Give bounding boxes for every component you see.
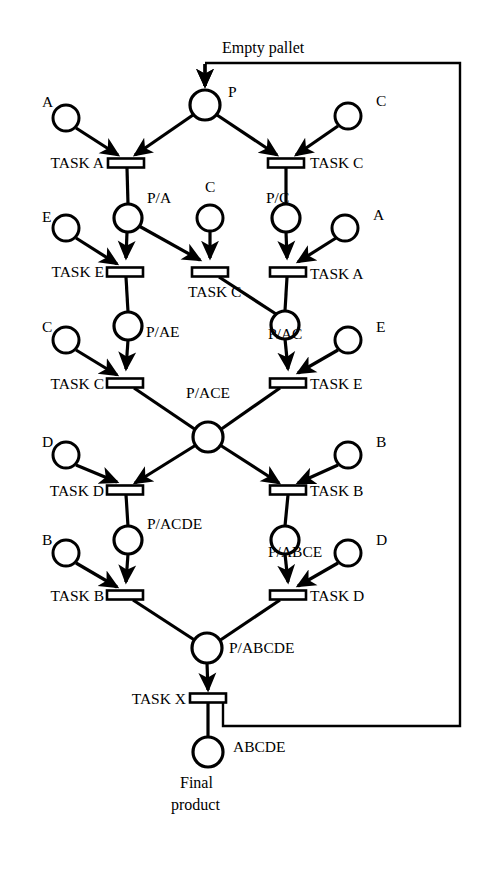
- arc-res_c_3-to-t_c_3: [76, 350, 117, 375]
- place-res_b_2[interactable]: [53, 540, 79, 566]
- place-circle: [335, 327, 361, 353]
- transition-bar: [270, 486, 306, 495]
- arc-t_b_2-to-p_abcde: [133, 600, 196, 641]
- place-circle: [335, 540, 361, 566]
- arc-res_d_1-to-t_d_1: [76, 465, 117, 482]
- transition-label-t_c_3: TASK C: [51, 375, 104, 392]
- transition-bar: [190, 694, 226, 703]
- transition-bar: [270, 591, 306, 600]
- place-circle: [53, 540, 79, 566]
- transition-label-t_e_1: TASK E: [51, 263, 104, 280]
- arc-p-to-t_a_1: [135, 115, 193, 155]
- arc-res_e_2-to-t_e_2: [298, 350, 338, 373]
- transition-t_a_1[interactable]: [108, 159, 144, 168]
- place-p_acde[interactable]: [114, 526, 142, 554]
- place-label-p_ae: P/AE: [146, 323, 180, 340]
- transition-t_e_2[interactable]: [270, 379, 306, 388]
- place-circle: [53, 327, 79, 353]
- place-abcde[interactable]: [193, 737, 223, 767]
- petri-net-diagram: TASK ATASK CTASK ETASK CTASK ATASK CTASK…: [0, 0, 487, 869]
- place-label-res_c_2: C: [205, 178, 215, 195]
- place-label-res_e_1: E: [42, 208, 51, 225]
- arc-p-to-t_c_1: [217, 115, 277, 155]
- arc-p_a-to-t_c_2: [139, 226, 200, 260]
- transition-t_c_2[interactable]: [192, 268, 228, 277]
- place-circle: [114, 526, 142, 554]
- place-res_e_1[interactable]: [53, 215, 79, 241]
- place-label-p_a: P/A: [147, 189, 172, 206]
- place-label-p_acde: P/ACDE: [147, 515, 202, 532]
- arc-p_a-to-t_e_1: [126, 232, 127, 258]
- transition-bar: [107, 379, 143, 388]
- place-res_b_1[interactable]: [335, 442, 361, 468]
- transition-bar: [270, 268, 306, 277]
- arc-p_abcde-to-t_x: [207, 663, 208, 690]
- arc-res_e_1-to-t_e_1: [76, 238, 117, 264]
- transition-t_c_1[interactable]: [268, 159, 304, 168]
- transition-label-t_a_2: TASK A: [310, 265, 364, 282]
- transition-label-t_d_2: TASK D: [310, 587, 364, 604]
- transition-label-t_c_2: TASK C: [188, 283, 241, 300]
- transition-label-t_a_1: TASK A: [51, 154, 105, 171]
- place-res_d_2[interactable]: [335, 540, 361, 566]
- place-res_a_2[interactable]: [332, 215, 358, 241]
- arc-res_a_1-to-t_a_1: [76, 128, 118, 155]
- transition-label-t_e_2: TASK E: [310, 375, 363, 392]
- place-p_a[interactable]: [114, 204, 142, 232]
- place-label-res_a_2: A: [373, 206, 385, 223]
- transition-bar: [107, 591, 143, 600]
- place-circle: [114, 204, 142, 232]
- place-res_e_2[interactable]: [335, 327, 361, 353]
- place-label-p_abcde: P/ABCDE: [229, 639, 294, 656]
- place-label-res_e_2: E: [376, 318, 385, 335]
- arc-t_d_2-to-p_abcde: [219, 600, 280, 641]
- place-p_c[interactable]: [272, 204, 300, 232]
- place-res_a_1[interactable]: [53, 105, 79, 131]
- arc-t_e_1-to-p_ae: [126, 277, 128, 312]
- arc-res_a_2-to-t_a_2: [298, 238, 336, 262]
- place-res_c_1[interactable]: [335, 103, 361, 129]
- place-circle: [192, 633, 222, 663]
- arc-t_a_1-to-p_a: [127, 168, 128, 204]
- place-p[interactable]: [190, 90, 220, 120]
- arc-p_ae-to-t_c_3: [126, 340, 128, 369]
- transition-t_c_3[interactable]: [107, 379, 143, 388]
- place-label-res_d_2: D: [376, 531, 387, 548]
- transition-bar: [107, 268, 143, 277]
- arc-p_ace-to-t_d_1: [135, 445, 196, 483]
- arc-res_b_2-to-t_b_2: [76, 563, 117, 587]
- transition-label-t_b_1: TASK B: [310, 482, 363, 499]
- place-label-p: P: [228, 83, 237, 100]
- arc-p_ace-to-t_b_1: [220, 445, 279, 483]
- transition-t_e_1[interactable]: [107, 268, 143, 277]
- arc-p_ac-to-t_e_2: [285, 339, 288, 369]
- place-circle: [332, 215, 358, 241]
- transition-label-t_b_2: TASK B: [51, 587, 104, 604]
- arc-t_d_1-to-p_acde: [126, 495, 128, 526]
- transition-t_b_1[interactable]: [270, 486, 306, 495]
- place-res_c_2[interactable]: [197, 205, 223, 231]
- transition-t_a_2[interactable]: [270, 268, 306, 277]
- place-res_c_3[interactable]: [53, 327, 79, 353]
- arc-res_c_1-to-t_c_1: [296, 126, 338, 155]
- arc-t_a_2-to-p_ac: [285, 277, 287, 311]
- place-label-res_b_1: B: [376, 433, 386, 450]
- transition-t_d_2[interactable]: [270, 591, 306, 600]
- place-circle: [190, 90, 220, 120]
- transition-t_x[interactable]: [190, 694, 226, 703]
- place-circle: [272, 204, 300, 232]
- place-label-p_ac: P/AC: [268, 325, 302, 342]
- place-p_ae[interactable]: [114, 312, 142, 340]
- transition-bar: [192, 268, 228, 277]
- place-circle: [53, 442, 79, 468]
- place-p_ace[interactable]: [193, 422, 223, 452]
- arc-p_c-to-t_a_2: [286, 232, 287, 258]
- place-p_abcde[interactable]: [192, 633, 222, 663]
- transition-t_b_2[interactable]: [107, 591, 143, 600]
- place-label-res_c_3: C: [42, 318, 52, 335]
- transition-t_d_1[interactable]: [107, 486, 143, 495]
- place-label-p_abce: P/ABCE: [268, 543, 322, 560]
- place-label-abcde: ABCDE: [233, 738, 286, 755]
- place-circle: [53, 105, 79, 131]
- place-res_d_1[interactable]: [53, 442, 79, 468]
